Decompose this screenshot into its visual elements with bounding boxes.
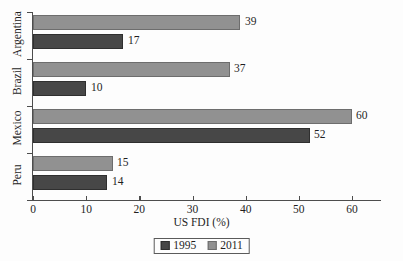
x-axis-tick-60 <box>352 196 353 201</box>
legend-entry-1995[interactable]: 1995 <box>160 240 196 251</box>
x-axis-line <box>33 200 381 201</box>
y-axis-label-mexico: Mexico <box>11 103 23 153</box>
x-axis-tick-label-20: 20 <box>126 203 152 215</box>
bar-brazil-1995[interactable] <box>33 81 86 96</box>
x-axis-tick-label-40: 40 <box>233 203 259 215</box>
bar-value-peru-1995: 14 <box>112 174 124 189</box>
bar-value-argentina-2011: 39 <box>245 14 257 29</box>
bar-group-peru: 15 14 <box>33 153 381 200</box>
x-axis-tick-label-10: 10 <box>73 203 99 215</box>
bar-peru-2011[interactable] <box>33 156 113 171</box>
bar-value-brazil-1995: 10 <box>91 80 103 95</box>
x-axis-tick-0 <box>33 196 34 201</box>
legend-label-2011: 2011 <box>220 240 243 251</box>
x-axis-tick-10 <box>86 196 87 201</box>
legend-label-1995: 1995 <box>173 240 196 251</box>
x-axis-tick-40 <box>246 196 247 201</box>
legend: 1995 2011 <box>153 238 250 254</box>
bar-value-brazil-2011: 37 <box>234 61 246 76</box>
bar-argentina-1995[interactable] <box>33 34 123 49</box>
bar-peru-1995[interactable] <box>33 175 107 190</box>
bar-value-argentina-1995: 17 <box>128 33 140 48</box>
legend-swatch-1995-icon <box>160 241 169 250</box>
bar-group-mexico: 60 52 <box>33 106 381 153</box>
y-axis-label-brazil: Brazil <box>11 56 23 106</box>
bar-mexico-1995[interactable] <box>33 128 310 143</box>
bar-chart: Argentina Brazil Mexico Peru 39 17 37 10 <box>0 0 403 261</box>
x-axis-tick-label-30: 30 <box>180 203 206 215</box>
bar-brazil-2011[interactable] <box>33 62 230 77</box>
legend-entry-2011[interactable]: 2011 <box>207 240 243 251</box>
bar-argentina-2011[interactable] <box>33 15 240 30</box>
bar-group-argentina: 39 17 <box>33 12 381 59</box>
bar-value-mexico-2011: 60 <box>356 108 368 123</box>
x-axis-title: US FDI (%) <box>0 216 403 228</box>
bar-group-brazil: 37 10 <box>33 59 381 106</box>
bar-mexico-2011[interactable] <box>33 109 352 124</box>
legend-swatch-2011-icon <box>207 241 216 250</box>
x-axis-tick-label-50: 50 <box>286 203 312 215</box>
bar-value-mexico-1995: 52 <box>314 127 326 142</box>
y-axis-label-peru: Peru <box>11 150 23 200</box>
x-axis-tick-50 <box>299 196 300 201</box>
y-axis-label-argentina: Argentina <box>11 4 23 64</box>
plot-area: 39 17 37 10 60 <box>33 12 381 200</box>
x-axis-tick-label-0: 0 <box>20 203 46 215</box>
x-axis-tick-20 <box>139 196 140 201</box>
bar-value-peru-2011: 15 <box>117 155 129 170</box>
x-axis-tick-30 <box>193 196 194 201</box>
x-axis-tick-label-60: 60 <box>339 203 365 215</box>
